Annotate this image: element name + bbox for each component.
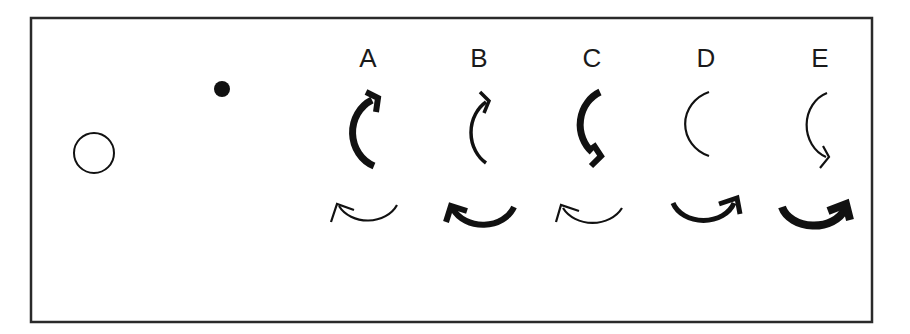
top-arrow-c-icon	[580, 92, 601, 166]
bottom-arrow-e-icon	[782, 204, 850, 226]
option-label-e: E	[811, 43, 828, 73]
filled-dot-icon	[214, 81, 230, 97]
option-label-d: D	[697, 43, 716, 73]
bottom-arrow-a-icon	[331, 204, 397, 222]
top-arrow-e-icon	[807, 93, 829, 168]
option-label-a: A	[359, 43, 377, 73]
top-arrow-d-icon	[685, 92, 709, 156]
rotation-diagram: A B C D E	[0, 0, 910, 334]
bottom-arrow-d-icon	[673, 198, 740, 220]
bottom-arrow-c-icon	[556, 205, 622, 223]
bottom-arrow-b-icon	[446, 206, 514, 225]
option-label-b: B	[470, 43, 487, 73]
open-circle-icon	[74, 133, 114, 173]
diagram-frame	[31, 18, 872, 322]
top-arrow-b-icon	[471, 92, 489, 163]
option-label-c: C	[583, 43, 602, 73]
top-arrow-a-icon	[353, 92, 378, 166]
